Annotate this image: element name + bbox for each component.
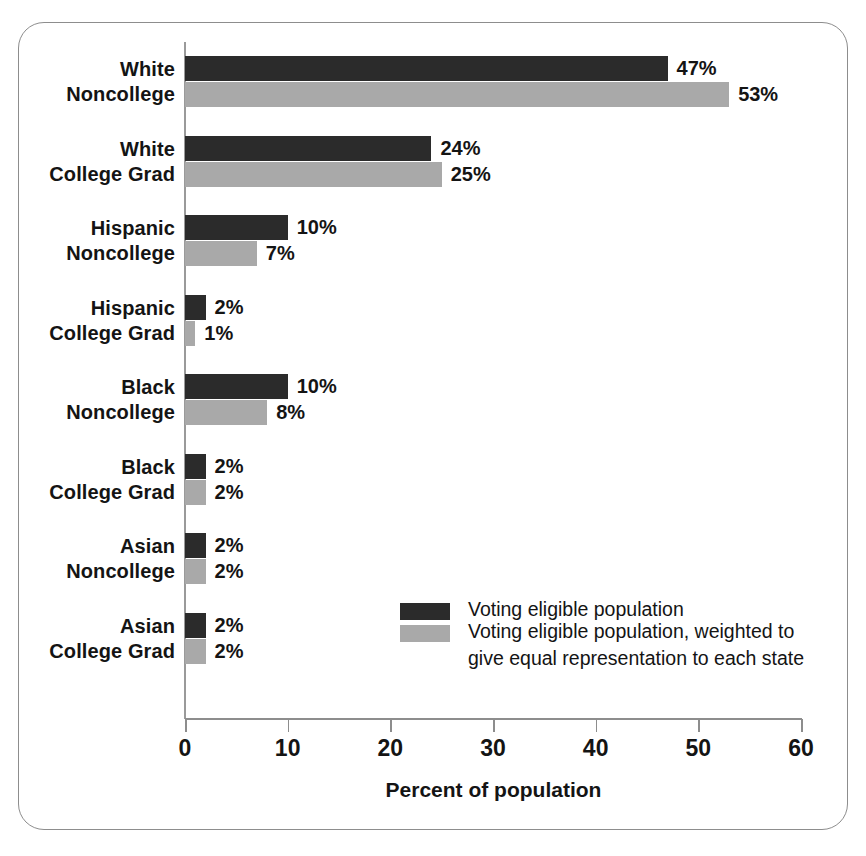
- category-label-line: College Grad: [0, 321, 175, 346]
- category-label-line: Noncollege: [0, 559, 175, 584]
- bar-value-label: 53%: [738, 82, 778, 107]
- category-label: WhiteNoncollege: [0, 57, 175, 107]
- bar-group: HispanicNoncollege10%7%: [0, 215, 866, 273]
- bar-light[interactable]: [185, 559, 206, 584]
- x-axis-tick-label: 60: [771, 735, 831, 762]
- bar-value-label: 47%: [677, 56, 717, 81]
- bar-group: BlackCollege Grad2%2%: [0, 454, 866, 512]
- bar-value-label: 2%: [215, 454, 244, 479]
- x-axis-tick: [185, 719, 187, 732]
- bar-light[interactable]: [185, 321, 195, 346]
- category-label-line: Black: [0, 455, 175, 480]
- category-label-line: Noncollege: [0, 241, 175, 266]
- legend-label-light-line1: Voting eligible population, weighted to: [468, 618, 818, 645]
- bar-light[interactable]: [185, 480, 206, 505]
- legend-label-light: Voting eligible population, weighted to …: [468, 618, 818, 672]
- legend-swatch-dark: [400, 603, 450, 620]
- bar-value-label: 2%: [215, 533, 244, 558]
- category-label: WhiteCollege Grad: [0, 137, 175, 187]
- bar-light[interactable]: [185, 400, 267, 425]
- bar-value-label: 24%: [440, 136, 480, 161]
- bar-dark[interactable]: [185, 56, 668, 81]
- bar-value-label: 2%: [215, 613, 244, 638]
- bar-value-label: 7%: [266, 241, 295, 266]
- x-axis-tick-label: 40: [566, 735, 626, 762]
- x-axis-tick: [493, 719, 495, 732]
- category-label: HispanicCollege Grad: [0, 296, 175, 346]
- category-label-line: Noncollege: [0, 82, 175, 107]
- category-label-line: Asian: [0, 614, 175, 639]
- category-label-line: College Grad: [0, 639, 175, 664]
- category-label: AsianNoncollege: [0, 534, 175, 584]
- bar-value-label: 2%: [215, 639, 244, 664]
- bar-value-label: 2%: [215, 480, 244, 505]
- x-axis-tick-label: 50: [668, 735, 728, 762]
- bar-chart-plot-area: WhiteNoncollege47%53%WhiteCollege Grad24…: [0, 0, 866, 856]
- category-label: BlackNoncollege: [0, 375, 175, 425]
- x-axis-tick: [288, 719, 290, 732]
- bar-dark[interactable]: [185, 295, 206, 320]
- x-axis-tick: [801, 719, 803, 732]
- bar-value-label: 10%: [297, 215, 337, 240]
- bar-group: HispanicCollege Grad2%1%: [0, 295, 866, 353]
- legend-swatch-light: [400, 625, 450, 642]
- bar-value-label: 1%: [204, 321, 233, 346]
- x-axis-tick: [698, 719, 700, 732]
- x-axis-tick: [390, 719, 392, 732]
- bar-dark[interactable]: [185, 136, 431, 161]
- legend-label-light-line2: give equal representation to each state: [468, 645, 818, 672]
- bar-value-label: 2%: [215, 295, 244, 320]
- bar-group: AsianNoncollege2%2%: [0, 533, 866, 591]
- category-label-line: Asian: [0, 534, 175, 559]
- category-label-line: College Grad: [0, 480, 175, 505]
- chart-legend: Voting eligible population Voting eligib…: [400, 603, 820, 625]
- x-axis-tick-label: 10: [258, 735, 318, 762]
- category-label-line: College Grad: [0, 162, 175, 187]
- category-label-line: White: [0, 137, 175, 162]
- bar-dark[interactable]: [185, 533, 206, 558]
- bar-light[interactable]: [185, 639, 206, 664]
- bar-group: WhiteNoncollege47%53%: [0, 56, 866, 114]
- category-label-line: White: [0, 57, 175, 82]
- bar-group: BlackNoncollege10%8%: [0, 374, 866, 432]
- x-axis-tick: [596, 719, 598, 732]
- x-axis-tick-label: 30: [463, 735, 523, 762]
- bar-value-label: 8%: [276, 400, 305, 425]
- x-axis-tick-label: 0: [155, 735, 215, 762]
- x-axis-title: Percent of population: [185, 778, 802, 802]
- bar-dark[interactable]: [185, 613, 206, 638]
- bar-group: WhiteCollege Grad24%25%: [0, 136, 866, 194]
- category-label-line: Hispanic: [0, 216, 175, 241]
- category-label-line: Noncollege: [0, 400, 175, 425]
- category-label: HispanicNoncollege: [0, 216, 175, 266]
- bar-value-label: 10%: [297, 374, 337, 399]
- bar-dark[interactable]: [185, 454, 206, 479]
- bar-light[interactable]: [185, 82, 729, 107]
- bar-dark[interactable]: [185, 215, 288, 240]
- category-label: BlackCollege Grad: [0, 455, 175, 505]
- bar-value-label: 2%: [215, 559, 244, 584]
- bar-value-label: 25%: [451, 162, 491, 187]
- bar-dark[interactable]: [185, 374, 288, 399]
- category-label-line: Hispanic: [0, 296, 175, 321]
- bar-light[interactable]: [185, 241, 257, 266]
- x-axis-tick-label: 20: [360, 735, 420, 762]
- bar-light[interactable]: [185, 162, 442, 187]
- category-label: AsianCollege Grad: [0, 614, 175, 664]
- category-label-line: Black: [0, 375, 175, 400]
